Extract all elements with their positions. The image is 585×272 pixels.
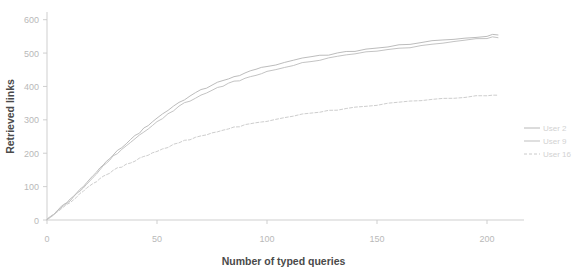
- y-tick-label: 600: [24, 15, 39, 25]
- x-tick-label: 100: [259, 234, 274, 244]
- series-line-user-9: [47, 37, 498, 220]
- legend-label-user-2: User 2: [543, 124, 567, 133]
- y-tick-label: 100: [24, 182, 39, 192]
- line-chart: 0100200300400500600050100150200Number of…: [0, 0, 585, 272]
- y-tick-label: 400: [24, 82, 39, 92]
- series-line-user-2: [47, 34, 498, 219]
- x-axis-title: Number of typed queries: [222, 255, 346, 267]
- y-tick-label: 300: [24, 115, 39, 125]
- legend-label-user-16: User 16: [543, 150, 572, 159]
- x-tick-label: 200: [479, 234, 494, 244]
- y-tick-label: 200: [24, 149, 39, 159]
- chart-container: 0100200300400500600050100150200Number of…: [0, 0, 585, 272]
- legend-label-user-9: User 9: [543, 137, 567, 146]
- x-tick-label: 150: [369, 234, 384, 244]
- x-tick-label: 50: [152, 234, 162, 244]
- y-tick-label: 500: [24, 49, 39, 59]
- series-line-user-16: [47, 95, 498, 219]
- x-tick-label: 0: [44, 234, 49, 244]
- y-axis-title: Retrieved links: [4, 79, 16, 154]
- y-tick-label: 0: [34, 216, 39, 226]
